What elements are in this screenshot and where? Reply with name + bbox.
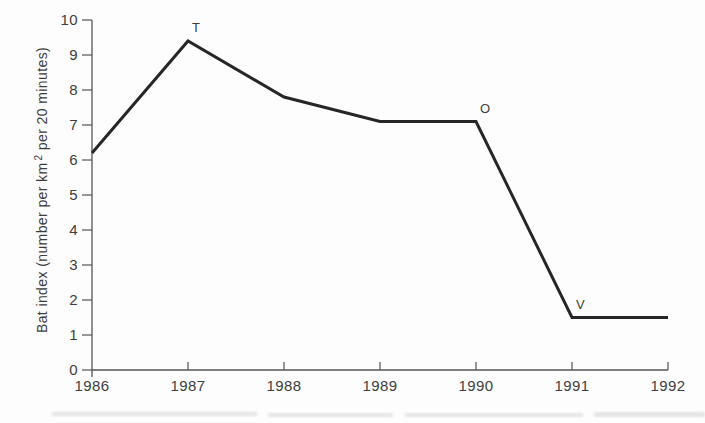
x-tick-label: 1989	[363, 377, 398, 394]
y-tick-label: 1	[69, 326, 78, 343]
y-tick-label: 2	[69, 291, 78, 308]
chart-background	[0, 0, 705, 423]
y-tick-label: 8	[69, 81, 78, 98]
bat-index-line-chart: 0123456789101986198719881989199019911992…	[0, 0, 705, 423]
scan-artifact	[52, 412, 257, 416]
x-tick-label: 1992	[651, 377, 686, 394]
point-label-o: O	[480, 101, 490, 116]
y-tick-label: 6	[69, 151, 78, 168]
x-tick-label: 1986	[75, 377, 110, 394]
x-tick-label: 1987	[171, 377, 206, 394]
point-label-v: V	[576, 297, 585, 312]
y-tick-label: 4	[69, 221, 78, 238]
bat-index-figure: 0123456789101986198719881989199019911992…	[0, 0, 705, 423]
scan-artifact	[594, 412, 705, 417]
x-tick-label: 1988	[267, 377, 302, 394]
scan-artifact	[268, 413, 393, 417]
y-tick-label: 7	[69, 116, 78, 133]
y-tick-label: 9	[69, 46, 78, 63]
x-tick-label: 1990	[459, 377, 494, 394]
y-tick-label: 10	[61, 11, 78, 28]
point-label-t: T	[192, 20, 200, 35]
x-tick-label: 1991	[555, 377, 590, 394]
y-tick-label: 0	[69, 361, 78, 378]
y-tick-label: 5	[69, 186, 78, 203]
scan-artifact	[405, 413, 583, 417]
y-axis-label: Bat index (number per km2 per 20 minutes…	[33, 47, 50, 333]
y-tick-label: 3	[69, 256, 78, 273]
